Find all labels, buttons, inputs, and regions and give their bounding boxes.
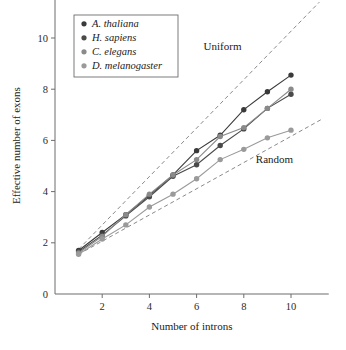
data-point: [218, 134, 223, 139]
data-point: [123, 212, 128, 217]
data-point: [76, 252, 81, 257]
x-tick-label: 6: [194, 301, 199, 312]
legend-marker-icon: [81, 49, 86, 54]
data-point: [100, 236, 105, 241]
y-tick-label: 2: [43, 237, 48, 248]
y-tick-label: 0: [43, 289, 48, 300]
data-point: [194, 176, 199, 181]
chart-legend: A. thalianaH. sapiensC. elegansD. melano…: [74, 15, 178, 77]
legend-marker-icon: [81, 63, 86, 68]
chart-annotation-uniform: Uniform: [204, 40, 242, 52]
reference-line-random: [79, 119, 323, 255]
data-point: [241, 125, 246, 130]
x-tick-label: 2: [100, 301, 105, 312]
data-point: [288, 87, 293, 92]
data-point: [265, 106, 270, 111]
data-point: [218, 157, 223, 162]
x-tick-label: 8: [241, 301, 246, 312]
data-point: [194, 162, 199, 167]
legend-label: C. elegans: [92, 46, 136, 57]
data-point: [241, 107, 246, 112]
data-point: [170, 172, 175, 177]
chart-annotation-random: Random: [256, 153, 294, 165]
data-point: [194, 148, 199, 153]
legend-marker-icon: [81, 21, 86, 26]
data-point: [123, 222, 128, 227]
legend-label: H. sapiens: [91, 32, 136, 43]
data-point: [147, 204, 152, 209]
legend-marker-icon: [81, 35, 86, 40]
y-tick-label: 6: [43, 135, 48, 146]
data-point: [265, 89, 270, 94]
y-tick-label: 4: [43, 186, 49, 197]
data-point: [288, 72, 293, 77]
y-tick-label: 8: [43, 84, 48, 95]
x-tick-label: 10: [286, 301, 297, 312]
x-axis-title: Number of introns: [151, 320, 232, 332]
chart-plot-area: 0246810246810 UniformRandom A. thalianaH…: [0, 0, 346, 350]
x-tick-label: 4: [147, 301, 153, 312]
data-point: [218, 143, 223, 148]
series-line-d--melanogaster: [79, 130, 291, 254]
data-point: [265, 135, 270, 140]
data-point: [147, 191, 152, 196]
data-point: [194, 157, 199, 162]
chart-figure: 0246810246810 UniformRandom A. thalianaH…: [0, 0, 346, 350]
data-point: [288, 127, 293, 132]
legend-label: D. melanogaster: [91, 60, 163, 71]
y-axis-title: Effective number of exons: [10, 87, 22, 204]
y-tick-label: 10: [38, 33, 49, 44]
legend-label: A. thaliana: [91, 18, 139, 29]
data-point: [170, 191, 175, 196]
data-point: [288, 92, 293, 97]
data-point: [241, 147, 246, 152]
series-line-c--elegans: [79, 89, 291, 253]
